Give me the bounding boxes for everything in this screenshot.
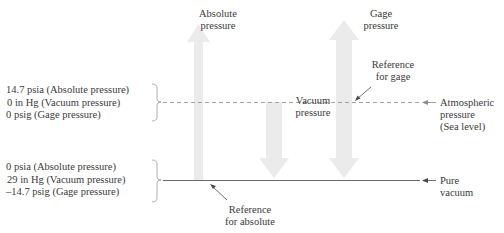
absolute-pressure-label: Absolute pressure: [190, 8, 246, 32]
vacuum-absolute-value: 0 psia (Absolute pressure): [6, 161, 125, 174]
absolute-pressure-label-line1: Absolute: [190, 8, 246, 20]
vacuum-brace: [152, 160, 161, 202]
atmospheric-label-line1: Atmospheric: [440, 97, 494, 109]
reference-absolute-arrowhead-icon: [210, 184, 216, 189]
atmospheric-vacuum-value: 0 in Hg (Vacuum pressure): [6, 97, 129, 110]
vacuum-pressure-label-line2: pressure: [288, 107, 338, 119]
reference-for-gage-label: Reference for gage: [365, 59, 421, 83]
gage-pressure-label-line1: Gage: [356, 8, 406, 20]
pure-vacuum-label-line1: Pure: [440, 175, 473, 187]
vacuum-pressure-label: Vacuum pressure: [288, 95, 338, 119]
reference-for-absolute-label: Reference for absolute: [218, 204, 282, 228]
vacuum-pressure-label-line1: Vacuum: [288, 95, 338, 107]
reference-for-gage-line1: Reference: [365, 59, 421, 71]
gage-pressure-label: Gage pressure: [356, 8, 406, 32]
reference-absolute-pointer-icon: [213, 187, 227, 200]
vacuum-pressure-arrow: [259, 102, 289, 178]
pure-vacuum-label: Pure vacuum: [440, 175, 473, 199]
reference-for-absolute-line2: for absolute: [218, 216, 282, 228]
atmospheric-values-group: 14.7 psia (Absolute pressure) 0 in Hg (V…: [6, 84, 129, 122]
absolute-pressure-label-line2: pressure: [190, 20, 246, 32]
atmospheric-arrowhead-icon: [422, 100, 428, 105]
absolute-pressure-arrow: [187, 24, 210, 180]
atmospheric-brace: [152, 84, 161, 121]
pure-vacuum-arrowhead-icon: [422, 178, 428, 183]
pure-vacuum-label-line2: vacuum: [440, 187, 473, 199]
atmospheric-gage-value: 0 psig (Gage pressure): [6, 109, 129, 122]
vacuum-vacuum-value: 29 in Hg (Vacuum pressure): [6, 174, 125, 187]
reference-for-absolute-line1: Reference: [218, 204, 282, 216]
gage-pressure-label-line2: pressure: [356, 20, 406, 32]
reference-for-gage-line2: for gage: [365, 71, 421, 83]
atmospheric-absolute-value: 14.7 psia (Absolute pressure): [6, 84, 129, 97]
atmospheric-pressure-label: Atmospheric pressure (Sea level): [440, 97, 494, 133]
vacuum-values-group: 0 psia (Absolute pressure) 29 in Hg (Vac…: [6, 161, 125, 199]
atmospheric-label-line2: pressure: [440, 109, 494, 121]
atmospheric-label-line3: (Sea level): [440, 121, 494, 133]
vacuum-gage-value: –14.7 psig (Gage pressure): [6, 186, 125, 199]
